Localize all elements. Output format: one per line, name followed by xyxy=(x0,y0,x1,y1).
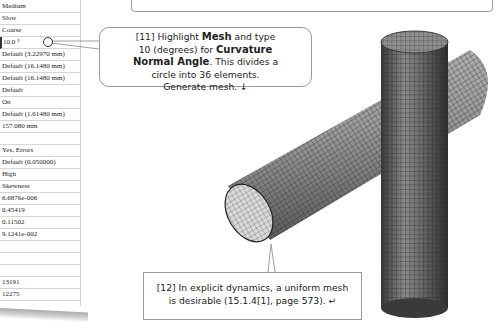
callout-11-line4: circle into 36 elements. xyxy=(100,69,311,82)
callout-step-12: [12] In explicit dynamics, a uniform mes… xyxy=(143,272,362,320)
callout-11-line5: Generate mesh. ↓ xyxy=(100,81,311,94)
vertical-cylinder xyxy=(381,31,448,318)
leader-line-12 xyxy=(271,244,275,272)
callout-11-line2: 10 (degrees) for Curvature xyxy=(100,44,311,57)
callout-step-11: [11] Highlight Mesh and type 10 (degrees… xyxy=(99,27,312,87)
callout-12-line2: is desirable (15.1.4[1], page 573). ↵ xyxy=(144,295,361,308)
callout-11-line1: [11] Highlight Mesh and type xyxy=(100,31,311,44)
leader-anchor-circle xyxy=(43,37,53,47)
callout-12-line1: [12] In explicit dynamics, a uniform mes… xyxy=(144,282,361,295)
callout-11-line3: Normal Angle. This divides a xyxy=(100,56,311,69)
